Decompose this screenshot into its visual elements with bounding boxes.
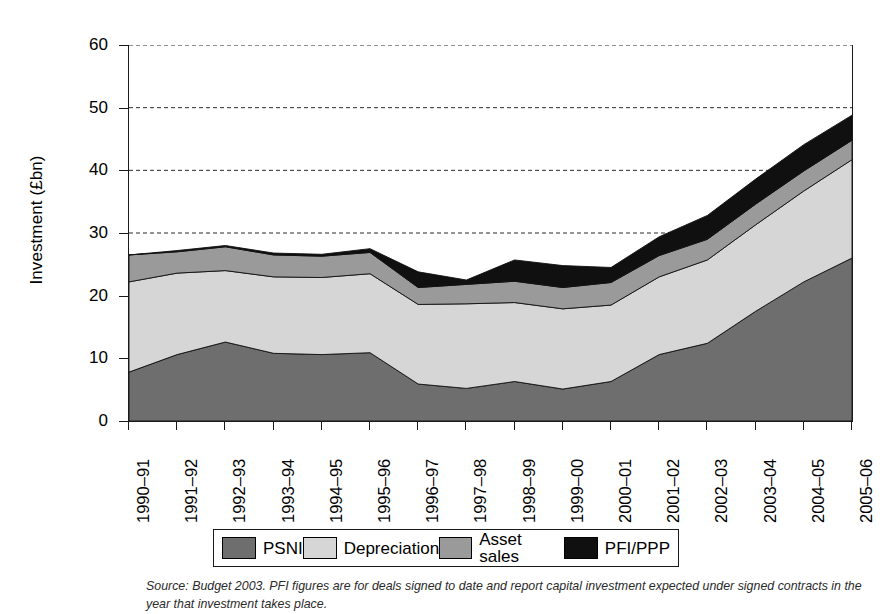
x-tick-label-14: 2004–05 <box>809 459 828 523</box>
y-tick-label-60: 60 <box>62 36 108 53</box>
legend-label-2: Asset sales <box>479 531 564 565</box>
x-tick-mark-4 <box>321 422 322 430</box>
x-tick-mark-5 <box>369 422 370 430</box>
y-tick-label-20: 20 <box>62 287 108 304</box>
x-tick-mark-6 <box>417 422 418 430</box>
x-tick-mark-13 <box>755 422 756 430</box>
legend-item-1[interactable]: Depreciation <box>303 537 439 559</box>
x-tick-label-2: 1992–93 <box>230 459 249 523</box>
x-tick-mark-0 <box>128 422 129 430</box>
y-tick-label-0: 0 <box>62 412 108 429</box>
legend-item-3[interactable]: PFI/PPP <box>564 537 670 559</box>
x-tick-mark-11 <box>658 422 659 430</box>
y-tick-mark-30 <box>119 233 128 234</box>
x-tick-mark-12 <box>706 422 707 430</box>
x-tick-mark-9 <box>562 422 563 430</box>
x-tick-label-11: 2001–02 <box>664 459 683 523</box>
x-tick-mark-2 <box>224 422 225 430</box>
x-tick-mark-3 <box>273 422 274 430</box>
y-tick-mark-0 <box>119 421 128 422</box>
legend-label-3: PFI/PPP <box>605 540 670 557</box>
y-tick-label-10: 10 <box>62 349 108 366</box>
x-tick-mark-7 <box>465 422 466 430</box>
x-tick-label-3: 1993–94 <box>279 459 298 523</box>
x-tick-label-5: 1995–96 <box>375 459 394 523</box>
y-tick-mark-60 <box>119 45 128 46</box>
y-tick-label-40: 40 <box>62 161 108 178</box>
x-tick-label-15: 2005–06 <box>857 459 876 523</box>
chart-figure: Investment (£bn) 1990–911991–921992–9319… <box>0 0 895 614</box>
legend-swatch-asset-sales <box>439 537 472 559</box>
x-tick-label-4: 1994–95 <box>327 459 346 523</box>
chart-legend: PSNI Depreciation Asset sales PFI/PPP <box>213 529 679 567</box>
x-tick-label-9: 1999–00 <box>568 459 587 523</box>
y-tick-mark-40 <box>119 170 128 171</box>
y-tick-mark-50 <box>119 108 128 109</box>
legend-swatch-psni <box>222 537 256 559</box>
legend-item-2[interactable]: Asset sales <box>439 531 564 565</box>
x-tick-label-13: 2003–04 <box>761 459 780 523</box>
source-note: Source: Budget 2003. PFI figures are for… <box>146 578 866 614</box>
y-tick-mark-20 <box>119 296 128 297</box>
x-tick-label-6: 1996–97 <box>423 459 442 523</box>
y-tick-label-50: 50 <box>62 99 108 116</box>
legend-swatch-depreciation <box>303 537 337 559</box>
plot-area <box>128 45 853 422</box>
x-tick-label-0: 1990–91 <box>134 459 153 523</box>
x-tick-mark-10 <box>610 422 611 430</box>
area-series-group <box>129 115 852 421</box>
y-axis-title-text: Investment (£bn) <box>27 155 47 284</box>
x-tick-mark-14 <box>803 422 804 430</box>
x-tick-mark-15 <box>851 422 852 430</box>
legend-label-0: PSNI <box>263 540 303 557</box>
stacked-area-svg <box>129 45 852 421</box>
x-tick-label-10: 2000–01 <box>616 459 635 523</box>
x-tick-label-12: 2002–03 <box>712 459 731 523</box>
y-tick-label-30: 30 <box>62 224 108 241</box>
y-axis-title: Investment (£bn) <box>20 0 54 440</box>
x-tick-mark-1 <box>176 422 177 430</box>
x-axis-labels: 1990–911991–921992–931993–941994–951995–… <box>0 433 895 533</box>
y-tick-mark-10 <box>119 358 128 359</box>
x-tick-label-8: 1998–99 <box>520 459 539 523</box>
legend-swatch-pfi-ppp <box>564 537 598 559</box>
x-tick-label-1: 1991–92 <box>182 459 201 523</box>
legend-item-0[interactable]: PSNI <box>222 537 303 559</box>
legend-label-1: Depreciation <box>344 540 439 557</box>
x-tick-label-7: 1997–98 <box>471 459 490 523</box>
x-tick-mark-8 <box>514 422 515 430</box>
